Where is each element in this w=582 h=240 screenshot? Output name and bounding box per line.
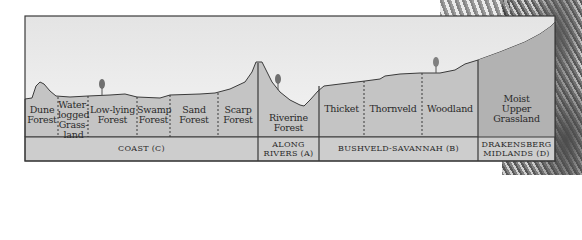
zone-label-waterlogged-grassland: Water-loggedGrass-land xyxy=(58,100,89,140)
zone-label-scarp-forest: ScarpForest xyxy=(218,105,258,125)
zone-label-riverine-forest: RiverineForest xyxy=(258,113,319,133)
zone-label-moist-upper-grassland: MoistUpperGrassland xyxy=(478,94,555,124)
zone-label-thicket: Thicket xyxy=(319,104,364,114)
zone-label-thornveld: Thornveld xyxy=(364,104,422,114)
region-label-along-rivers: ALONGRIVERS (A) xyxy=(258,140,319,158)
zone-label-sand-forest: SandForest xyxy=(170,105,218,125)
zone-label-woodland: Woodland xyxy=(422,104,478,114)
zone-label-swamp-forest: SwampForest xyxy=(137,105,170,125)
zone-label-low-lying-forest: Low-lyingForest xyxy=(88,105,137,125)
region-label-drakensberg-midlands: DRAKENSBERGMIDLANDS (D) xyxy=(478,140,555,158)
region-label-coast: COAST (C) xyxy=(25,144,258,153)
region-label-bushveld-savannah: BUSHVELD-SAVANNAH (B) xyxy=(319,144,478,153)
zone-label-dune-forest: DuneForest xyxy=(26,105,58,125)
